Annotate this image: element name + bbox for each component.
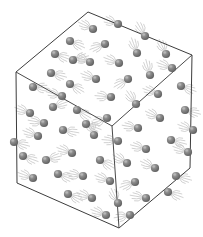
particle-sphere bbox=[126, 211, 134, 219]
particle-sphere bbox=[34, 132, 42, 140]
particle-highlight bbox=[124, 160, 127, 162]
particle-highlight bbox=[52, 51, 55, 53]
particle-sphere bbox=[114, 199, 122, 207]
particle-sphere bbox=[101, 40, 109, 48]
particle-sphere bbox=[124, 75, 132, 83]
particle bbox=[115, 59, 123, 67]
particle-sphere bbox=[82, 120, 90, 128]
particle bbox=[114, 199, 122, 207]
particle-sphere bbox=[164, 188, 172, 196]
particle bbox=[114, 137, 122, 145]
particle-sphere bbox=[59, 126, 67, 134]
particle bbox=[103, 114, 111, 122]
particle-sphere bbox=[42, 156, 50, 164]
particle-sphere bbox=[141, 32, 149, 40]
particle-sphere bbox=[66, 80, 74, 88]
particle-highlight bbox=[173, 173, 176, 175]
particle bbox=[51, 50, 59, 58]
particle bbox=[172, 172, 180, 180]
particle-sphere bbox=[96, 156, 104, 164]
particle-highlight bbox=[55, 171, 58, 173]
particle-sphere bbox=[167, 136, 175, 144]
particle-sphere bbox=[47, 69, 55, 77]
particle-sphere bbox=[26, 109, 34, 117]
particle-highlight bbox=[69, 150, 72, 152]
particle bbox=[134, 124, 142, 132]
particle-highlight bbox=[74, 107, 77, 109]
particle bbox=[29, 83, 37, 91]
particle-highlight bbox=[133, 101, 136, 103]
particle-sphere bbox=[73, 106, 81, 114]
particle-highlight bbox=[48, 70, 51, 72]
particle bbox=[133, 49, 141, 57]
particle bbox=[167, 136, 175, 144]
particle-sphere bbox=[131, 178, 139, 186]
particle-highlight bbox=[70, 57, 73, 59]
particle-highlight bbox=[135, 125, 138, 127]
particle-highlight bbox=[65, 191, 68, 193]
particle-highlight bbox=[30, 84, 33, 86]
particle-sphere bbox=[142, 194, 150, 202]
particle bbox=[86, 58, 94, 66]
particle bbox=[90, 131, 98, 139]
particle-sphere bbox=[64, 190, 72, 198]
particle-sphere bbox=[29, 83, 37, 91]
particle bbox=[66, 80, 74, 88]
particle bbox=[126, 211, 134, 219]
particle-highlight bbox=[83, 121, 86, 123]
particle bbox=[106, 177, 114, 185]
particle-highlight bbox=[27, 110, 30, 112]
particle bbox=[181, 106, 189, 114]
particle-sphere bbox=[103, 114, 111, 122]
particle bbox=[10, 138, 18, 146]
particle-sphere bbox=[89, 25, 97, 33]
particle-highlight bbox=[169, 65, 172, 67]
particle bbox=[69, 56, 77, 64]
particle-highlight bbox=[91, 132, 94, 134]
particle-highlight bbox=[142, 33, 145, 35]
particle-highlight bbox=[87, 59, 90, 61]
particle bbox=[154, 90, 162, 98]
particle-highlight bbox=[90, 26, 93, 28]
particle-highlight bbox=[134, 50, 137, 52]
particle bbox=[142, 194, 150, 202]
particle-highlight bbox=[80, 173, 83, 175]
particle bbox=[42, 156, 50, 164]
particle bbox=[66, 37, 74, 45]
particle bbox=[47, 69, 55, 77]
particle bbox=[168, 64, 176, 72]
particle bbox=[54, 170, 62, 178]
particle-sphere bbox=[58, 92, 66, 100]
particle bbox=[114, 20, 122, 28]
particle-highlight bbox=[143, 195, 146, 197]
particle bbox=[101, 40, 109, 48]
particle-highlight bbox=[93, 76, 96, 78]
particle bbox=[177, 82, 185, 90]
particle-sphere bbox=[151, 164, 159, 172]
particle-highlight bbox=[182, 107, 185, 109]
particle-highlight bbox=[168, 137, 171, 139]
particle-sphere bbox=[133, 49, 141, 57]
particle-sphere bbox=[68, 149, 76, 157]
particle-sphere bbox=[106, 177, 114, 185]
particle-highlight bbox=[11, 139, 14, 141]
particle bbox=[79, 172, 87, 180]
particle bbox=[88, 194, 96, 202]
cube-scene bbox=[0, 0, 203, 237]
particle bbox=[34, 132, 42, 140]
particle-highlight bbox=[104, 115, 107, 117]
particle bbox=[82, 120, 90, 128]
particle-sphere bbox=[123, 159, 131, 167]
particle-highlight bbox=[190, 127, 193, 129]
particle-sphere bbox=[189, 126, 197, 134]
particle-highlight bbox=[41, 120, 44, 122]
particle bbox=[162, 50, 170, 58]
particle-highlight bbox=[67, 38, 70, 40]
particle-sphere bbox=[172, 172, 180, 180]
particle-sphere bbox=[19, 152, 27, 160]
particle-sphere bbox=[10, 138, 18, 146]
particle-highlight bbox=[147, 72, 150, 74]
particle-sphere bbox=[88, 194, 96, 202]
particle-highlight bbox=[115, 200, 118, 202]
particle bbox=[132, 100, 140, 108]
